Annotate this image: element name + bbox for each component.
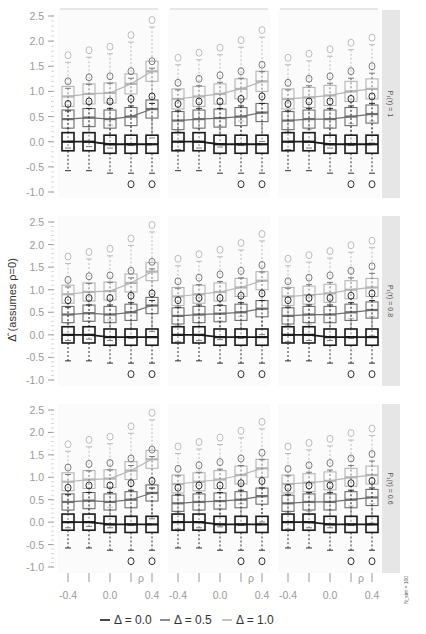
y-tick-label: 0.0 xyxy=(29,516,44,528)
y-tick-label: 0.5 xyxy=(29,111,44,123)
y-tick-label: 2.5 xyxy=(29,404,44,416)
legend-label: Δ = 1.0 xyxy=(236,613,274,627)
row-strip-label: P₁(τ) = 0.6 xyxy=(386,472,394,504)
legend-label: Δ = 0.5 xyxy=(174,613,212,627)
x-tick-label: 0.0 xyxy=(323,589,338,601)
y-tick-label: -0.5 xyxy=(26,539,44,551)
y-tick-label: 2.0 xyxy=(29,426,44,438)
y-tick-label: 2.5 xyxy=(29,10,44,22)
y-tick-label: 0.5 xyxy=(29,306,44,318)
x-axis-label: ρ xyxy=(138,572,144,584)
faceted-boxplot-chart: Δ̂ (assumes ρ=0)β₁₂ = 0β₁₂ = 0.5β₁₂ = 1P… xyxy=(0,0,426,634)
panel xyxy=(58,10,160,198)
y-tick-label: 2.0 xyxy=(29,35,44,47)
x-tick-label: -0.4 xyxy=(279,589,297,601)
y-tick-label: 2.0 xyxy=(29,239,44,251)
y-tick-label: -1.0 xyxy=(26,374,44,386)
x-tick-label: 0.4 xyxy=(145,589,160,601)
x-tick-label: 0.0 xyxy=(213,589,228,601)
y-tick-label: -1.0 xyxy=(26,561,44,573)
x-axis-label: ρ xyxy=(358,572,364,584)
x-tick-label: 0.4 xyxy=(255,589,270,601)
y-axis-label: Δ̂ (assumes ρ=0) xyxy=(6,258,18,342)
legend-label: Δ = 0.0 xyxy=(114,613,152,627)
y-tick-label: 0.0 xyxy=(29,329,44,341)
y-tick-label: 1.0 xyxy=(29,85,44,97)
nsim-note: N_sim = 100 xyxy=(403,576,409,604)
x-tick-label: -0.4 xyxy=(59,589,77,601)
panel xyxy=(278,10,380,198)
row-strip-label: P₁(τ) = 1 xyxy=(386,91,394,117)
y-tick-label: -0.5 xyxy=(26,351,44,363)
x-axis-label: ρ xyxy=(248,572,254,584)
y-tick-label: 1.0 xyxy=(29,284,44,296)
x-tick-label: -0.4 xyxy=(169,589,187,601)
x-tick-label: 0.4 xyxy=(365,589,380,601)
y-tick-label: 1.5 xyxy=(29,60,44,72)
y-tick-label: 0.0 xyxy=(29,136,44,148)
y-tick-label: -0.5 xyxy=(26,161,44,173)
x-tick-label: 0.0 xyxy=(103,589,118,601)
y-tick-label: 1.5 xyxy=(29,449,44,461)
y-tick-label: 1.0 xyxy=(29,471,44,483)
row-strip-label: P₁(τ) = 0.8 xyxy=(386,285,394,317)
y-tick-label: 0.5 xyxy=(29,494,44,506)
y-tick-label: -1.0 xyxy=(26,186,44,198)
y-tick-label: 1.5 xyxy=(29,261,44,273)
y-tick-label: 2.5 xyxy=(29,216,44,228)
